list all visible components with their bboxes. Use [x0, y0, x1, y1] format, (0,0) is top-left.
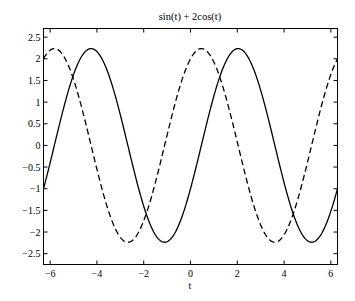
chart: sin(t) + 2cos(t) −6−4−20246 2.521.510.50… [0, 0, 355, 301]
chart-title: sin(t) + 2cos(t) [159, 11, 222, 23]
x-tick-label: 0 [188, 268, 193, 279]
x-axis: −6−4−20246 [45, 29, 334, 279]
series-line-dashed [44, 49, 338, 243]
x-tick-label: −6 [45, 268, 56, 279]
x-tick-label: 4 [282, 268, 287, 279]
x-tick-label: −4 [92, 268, 103, 279]
y-tick-label: 0 [36, 140, 41, 151]
y-tick-label: 0.5 [28, 118, 41, 129]
x-tick-label: 2 [235, 268, 240, 279]
y-tick-label: −2.5 [22, 248, 40, 259]
y-tick-label: −1.5 [22, 205, 40, 216]
x-axis-label: t [189, 280, 192, 291]
y-tick-label: 2.5 [28, 32, 41, 43]
y-tick-label: −1 [30, 183, 41, 194]
y-tick-label: −2 [30, 227, 41, 238]
x-tick-label: −2 [138, 268, 149, 279]
y-axis: 2.521.510.50−0.5−1−1.5−2−2.5 [22, 32, 337, 260]
y-tick-label: −0.5 [22, 162, 40, 173]
y-tick-label: 1 [36, 97, 41, 108]
x-tick-label: 6 [328, 268, 333, 279]
plot-lines [44, 49, 338, 243]
y-tick-label: 1.5 [28, 75, 41, 86]
y-tick-label: 2 [36, 53, 41, 64]
plot-frame [44, 29, 338, 265]
